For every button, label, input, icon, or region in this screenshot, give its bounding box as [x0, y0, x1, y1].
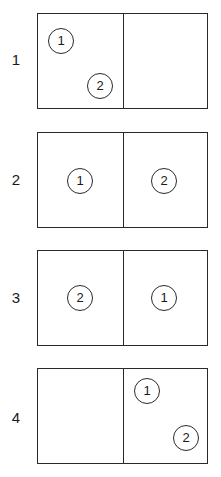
panel-3: 2 1 [37, 250, 208, 346]
row-label-2: 2 [8, 172, 24, 188]
circle-marker-2: 2 [173, 425, 199, 451]
panel-4: 1 2 [37, 368, 208, 464]
panel-2: 1 2 [37, 132, 208, 228]
panel-1: 1 2 [37, 13, 208, 109]
row-label-1: 1 [8, 52, 24, 68]
panel-divider [123, 251, 124, 345]
circle-marker-1: 1 [67, 168, 93, 194]
row-label-4: 4 [8, 410, 24, 426]
panel-divider [123, 133, 124, 227]
circle-marker-2: 2 [87, 73, 113, 99]
circle-marker-1: 1 [48, 28, 74, 54]
circle-marker-1: 1 [134, 378, 160, 404]
circle-marker-2: 2 [151, 168, 177, 194]
row-label-3: 3 [8, 290, 24, 306]
panel-divider [123, 369, 124, 463]
circle-marker-1: 1 [151, 285, 177, 311]
circle-marker-2: 2 [67, 285, 93, 311]
panel-divider [123, 14, 124, 108]
